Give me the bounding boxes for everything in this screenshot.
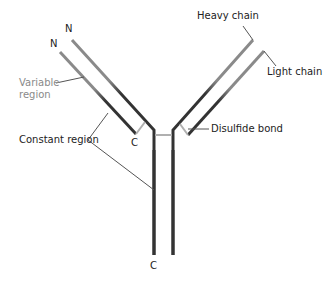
variable-region-label-line2: region <box>19 89 51 101</box>
disulfide-bond-label: Disulfide bond <box>211 123 283 135</box>
right-heavy-chain <box>173 40 253 255</box>
c-terminus-light-left: C <box>131 137 138 148</box>
light-chain-label: Light chain <box>267 66 322 78</box>
leader-light-chain <box>264 51 276 66</box>
disulfide-bond-left <box>136 122 145 134</box>
n-terminus-heavy-left: N <box>65 23 72 34</box>
left-light-chain <box>60 52 136 134</box>
leader-constant-region-lower <box>88 140 154 190</box>
constant-region-label: Constant region <box>19 134 99 146</box>
disulfide-bond-right <box>180 124 188 135</box>
variable-region-label-line1: Variable <box>19 77 60 89</box>
c-terminus-heavy-stem: C <box>150 260 157 271</box>
left-heavy-chain <box>72 40 154 255</box>
antibody-diagram: Heavy chain Light chain Variable region … <box>0 0 325 282</box>
heavy-chain-label: Heavy chain <box>197 10 259 22</box>
n-terminus-light-left: N <box>50 38 57 49</box>
leader-heavy-chain <box>243 26 253 40</box>
leader-variable-region <box>56 77 84 83</box>
